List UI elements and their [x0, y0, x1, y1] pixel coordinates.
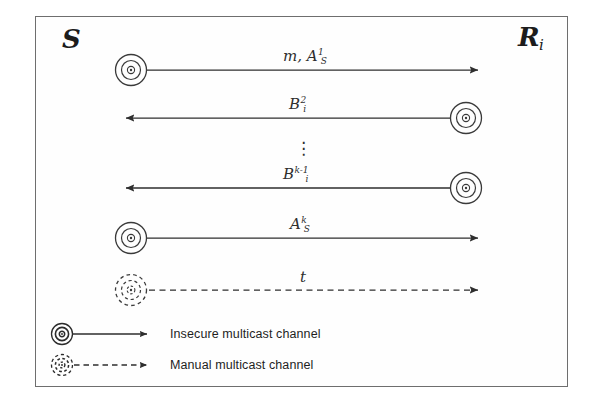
message-label-1: m, A1S [283, 48, 328, 66]
diagram-canvas: S Ri m, A1S B2i ⋮ Bk-1i AkS t Insecure m… [0, 0, 593, 405]
message-2-subscript: i [303, 104, 306, 114]
message-5-base: t [300, 268, 306, 286]
vertical-ellipsis: ⋮ [295, 140, 312, 157]
message-2-base: B [289, 95, 300, 113]
sender-endpoint-letter: S [62, 24, 81, 54]
message-label-2: B2i [289, 96, 307, 114]
message-1-subscript: S [321, 56, 327, 66]
receiver-endpoint-label: Ri [518, 24, 544, 53]
legend-label-insecure: Insecure multicast channel [170, 328, 321, 341]
sender-endpoint-label: S [62, 26, 81, 52]
message-4-subscript: S [304, 224, 310, 234]
message-1-base: m, A [283, 47, 318, 65]
receiver-endpoint-letter: R [518, 22, 540, 52]
message-3-base: B [283, 165, 294, 183]
message-label-5: t [300, 270, 306, 285]
message-label-4: AkS [290, 216, 311, 234]
legend-label-manual: Manual multicast channel [170, 359, 313, 372]
receiver-endpoint-subscript: i [539, 36, 544, 54]
message-4-base: A [290, 215, 301, 233]
message-3-subscript: i [306, 174, 309, 184]
message-label-3: Bk-1i [283, 166, 309, 184]
